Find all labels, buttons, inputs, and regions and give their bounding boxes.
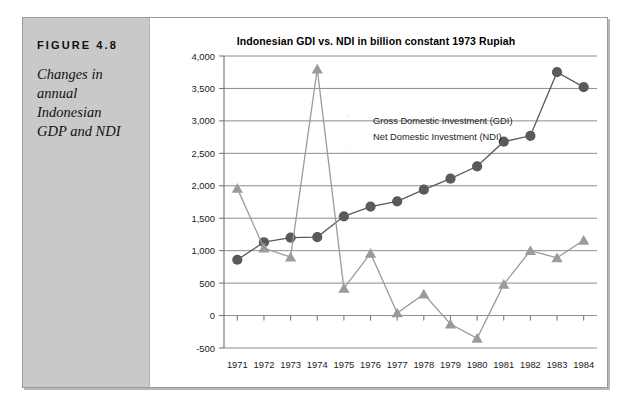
y-tick-label: 500 <box>199 278 215 289</box>
x-tick-label: 1972 <box>254 359 275 370</box>
figure-number-label: FIGURE 4.8 <box>37 39 141 51</box>
data-point-triangle <box>418 289 429 299</box>
x-tick-label: 1973 <box>280 359 301 370</box>
x-tick-label: 1978 <box>413 359 434 370</box>
triangle-marker-icon <box>327 147 367 148</box>
data-point-triangle <box>285 252 296 262</box>
x-tick-label: 1976 <box>360 359 381 370</box>
x-tick-label: 1974 <box>307 359 328 370</box>
y-tick-label: 3,000 <box>192 115 215 126</box>
y-tick-label: 4,000 <box>192 51 215 62</box>
figure-frame: FIGURE 4.8 Changes in annual Indonesian … <box>22 17 608 388</box>
legend-label-ndi: Net Domestic Investment (NDI) <box>373 132 502 142</box>
x-tick-label: 1979 <box>440 359 461 370</box>
y-tick-label: -500 <box>196 343 215 354</box>
legend-label-gdi: Gross Domestic Investment (GDI) <box>373 116 512 126</box>
data-point-triangle <box>365 248 376 258</box>
data-point-circle <box>312 232 322 242</box>
x-tick-label: 1977 <box>387 359 408 370</box>
y-tick-label: 1,500 <box>192 213 215 224</box>
figure-caption-block: FIGURE 4.8 Changes in annual Indonesian … <box>37 39 141 141</box>
data-point-circle <box>525 131 535 141</box>
data-point-triangle <box>338 283 349 293</box>
x-tick-label: 1975 <box>333 359 354 370</box>
data-point-circle <box>552 67 562 77</box>
series-line-triangle <box>237 69 583 338</box>
y-tick-label: 3,500 <box>192 83 215 94</box>
chart-svg: -50005001,0001,5002,0002,5003,0003,5004,… <box>151 18 609 389</box>
data-point-circle <box>392 196 402 206</box>
data-point-circle <box>472 161 482 171</box>
plot-area: -50005001,0001,5002,0002,5003,0003,5004,… <box>151 18 609 389</box>
x-tick-label: 1983 <box>547 359 568 370</box>
data-point-circle <box>419 185 429 195</box>
data-point-triangle <box>392 308 403 318</box>
data-point-circle <box>579 82 589 92</box>
chart-panel: Indonesian GDI vs. NDI in billion consta… <box>151 18 607 387</box>
data-point-circle <box>232 255 242 265</box>
figure-caption-rail: FIGURE 4.8 Changes in annual Indonesian … <box>23 18 150 387</box>
figure-caption-text: Changes in annual Indonesian GDP and NDI <box>37 65 133 141</box>
y-tick-label: 2,000 <box>192 180 215 191</box>
y-tick-label: 1,000 <box>192 245 215 256</box>
x-tick-label: 1981 <box>493 359 514 370</box>
series-line-circle <box>237 72 583 260</box>
data-point-triangle <box>498 279 509 289</box>
y-tick-label: 2,500 <box>192 148 215 159</box>
x-tick-label: 1984 <box>573 359 594 370</box>
data-point-triangle <box>578 235 589 245</box>
data-point-circle <box>445 174 455 184</box>
circle-marker-icon <box>327 115 367 116</box>
figure-root: FIGURE 4.8 Changes in annual Indonesian … <box>0 0 632 418</box>
data-point-triangle <box>472 333 483 343</box>
data-point-triangle <box>312 64 323 74</box>
y-tick-label: 0 <box>210 310 215 321</box>
x-tick-label: 1982 <box>520 359 541 370</box>
data-point-circle <box>365 201 375 211</box>
x-tick-label: 1971 <box>227 359 248 370</box>
x-tick-label: 1980 <box>467 359 488 370</box>
data-point-triangle <box>232 183 243 193</box>
data-point-circle <box>339 211 349 221</box>
